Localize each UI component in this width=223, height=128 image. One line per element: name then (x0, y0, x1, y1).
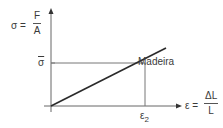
x-axis-fraction: ΔL L (204, 91, 218, 116)
epsilon2-subscript: 2 (144, 115, 148, 124)
y-axis-numerator: F (33, 11, 41, 24)
curve-label-madeira: Madeira (138, 57, 174, 67)
x-axis-symbol: ε = (185, 101, 198, 111)
x-axis-denominator: L (208, 104, 214, 116)
sigma-bar-label: σ (38, 58, 44, 68)
y-axis-denominator: A (34, 24, 41, 36)
y-axis-symbol: σ = (11, 21, 26, 31)
x-axis-arrow-icon (176, 104, 182, 109)
y-axis-arrow-icon (49, 8, 54, 14)
epsilon2-label: ε2 (140, 111, 149, 124)
x-axis-numerator: ΔL (204, 91, 218, 104)
y-axis-fraction: F A (33, 11, 41, 36)
